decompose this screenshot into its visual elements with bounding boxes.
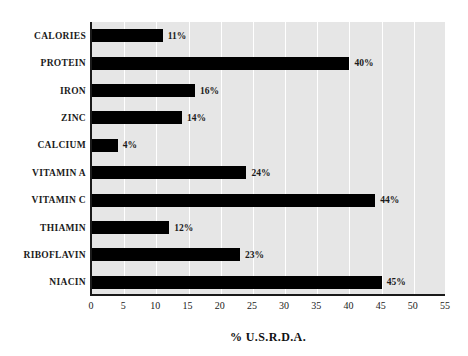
- value-label: 45%: [387, 277, 406, 287]
- x-tick-label: 35: [311, 300, 321, 311]
- category-label: VITAMIN A: [0, 168, 86, 178]
- value-label: 4%: [123, 140, 137, 150]
- value-label: 11%: [168, 31, 186, 41]
- value-label: 12%: [174, 223, 193, 233]
- value-label: 16%: [200, 86, 219, 96]
- category-label: VITAMIN C: [0, 195, 86, 205]
- x-tick-label: 30: [279, 300, 289, 311]
- category-label: NIACIN: [0, 277, 86, 287]
- bar-chart: CALORIESPROTEINIRONZINCCALCIUMVITAMIN AV…: [0, 0, 468, 356]
- category-label: CALORIES: [0, 31, 86, 41]
- x-tick-label: 0: [89, 300, 94, 311]
- category-label: PROTEIN: [0, 58, 86, 68]
- category-axis-labels: CALORIESPROTEINIRONZINCCALCIUMVITAMIN AV…: [0, 22, 86, 296]
- x-tick-label: 15: [183, 300, 193, 311]
- value-label: 44%: [380, 195, 399, 205]
- x-tick-label: 45: [376, 300, 386, 311]
- category-label: IRON: [0, 86, 86, 96]
- value-label: 24%: [251, 168, 270, 178]
- value-label: 14%: [187, 113, 206, 123]
- x-tick-label: 20: [215, 300, 225, 311]
- category-label: CALCIUM: [0, 140, 86, 150]
- category-label: THIAMIN: [0, 223, 86, 233]
- x-tick-label: 25: [247, 300, 257, 311]
- category-label: ZINC: [0, 113, 86, 123]
- x-tick-label: 5: [121, 300, 126, 311]
- x-tick-label: 50: [408, 300, 418, 311]
- x-axis-tick-labels: 0510152025303540455055: [90, 296, 446, 316]
- x-tick-label: 55: [440, 300, 450, 311]
- category-label: RIBOFLAVIN: [0, 250, 86, 260]
- value-label: 23%: [245, 250, 264, 260]
- data-value-labels: 11%40%16%14%4%24%44%12%23%45%: [90, 22, 468, 296]
- x-axis-title: % U.S.R.D.A.: [90, 330, 446, 345]
- x-tick-label: 40: [343, 300, 353, 311]
- x-tick-label: 10: [150, 300, 160, 311]
- value-label: 40%: [354, 58, 373, 68]
